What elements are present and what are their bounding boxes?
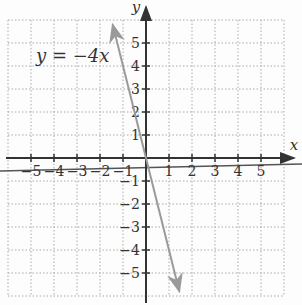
x-tick-label: 2 (188, 163, 197, 179)
coordinate-plane: −5−4−3−2−112345−5−4−3−2−112345xyy = −4x (0, 0, 302, 305)
y-tick-label: −3 (119, 219, 140, 235)
x-tick-label: 3 (211, 163, 220, 179)
x-tick-label: 4 (234, 163, 243, 179)
x-tick-label: −5 (21, 163, 42, 179)
x-tick-label: −3 (67, 163, 88, 179)
y-tick-label: −5 (119, 265, 140, 281)
graph-line-upper (113, 25, 146, 158)
y-tick-label: −4 (119, 242, 140, 258)
y-tick-label: −1 (119, 173, 140, 189)
y-tick-label: 5 (131, 35, 140, 51)
x-tick-label: −4 (44, 163, 65, 179)
y-axis-label: y (131, 0, 141, 16)
graph-line-lower (146, 158, 179, 291)
x-tick-label: −2 (90, 163, 111, 179)
equation-label: y = −4x (35, 45, 109, 66)
y-tick-label: 3 (131, 81, 140, 97)
x-axis-label: x (290, 136, 299, 154)
chart-container: −5−4−3−2−112345−5−4−3−2−112345xyy = −4x (0, 0, 302, 305)
x-tick-label: 1 (165, 163, 174, 179)
y-tick-label: 4 (131, 58, 140, 74)
x-tick-label: 5 (257, 163, 266, 179)
y-tick-label: −2 (119, 196, 140, 212)
